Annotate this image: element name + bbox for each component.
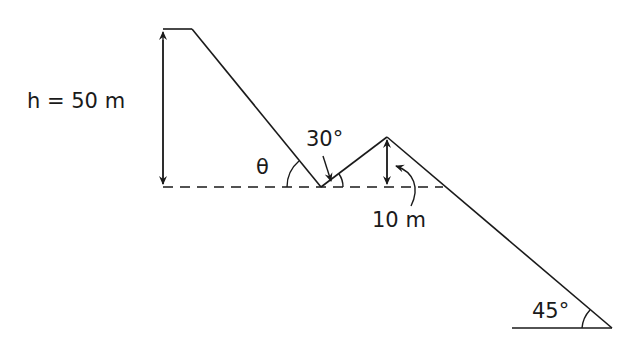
angle-45-label: 45° xyxy=(532,299,569,323)
theta-label: θ xyxy=(256,155,269,179)
angle-30-pointer xyxy=(323,156,331,181)
bump-height-label: 10 m xyxy=(372,208,426,232)
bump-label-pointer xyxy=(396,166,415,206)
angle-30-label: 30° xyxy=(306,127,343,151)
angle-45-arc xyxy=(582,310,590,328)
terrain-diagram: h = 50 m θ 30° 10 m 45° xyxy=(0,0,640,354)
height-label: h = 50 m xyxy=(27,89,125,113)
down-slope xyxy=(387,137,612,328)
theta-arc xyxy=(287,161,299,187)
angle-30-arc xyxy=(339,174,343,187)
